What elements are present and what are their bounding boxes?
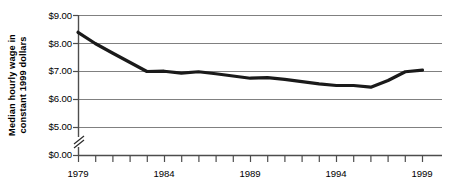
y-axis-break-icon	[74, 136, 84, 148]
gridlines	[78, 16, 442, 128]
plot-area	[0, 0, 449, 193]
chart-figure: Median hourly wage in constant 1999 doll…	[0, 0, 449, 193]
y-axis-ticks	[73, 16, 78, 156]
x-axis-ticks	[79, 156, 423, 163]
data-series-line	[78, 32, 423, 87]
